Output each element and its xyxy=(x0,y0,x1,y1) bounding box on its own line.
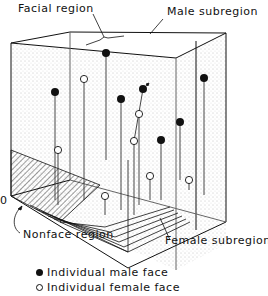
filled-circle-icon xyxy=(36,269,43,276)
male-face-point xyxy=(117,95,125,103)
male-face-point xyxy=(139,85,147,93)
female-face-point xyxy=(130,137,137,144)
male-face-point xyxy=(102,49,110,57)
male-subregion-label: Male subregion xyxy=(167,5,258,18)
legend-male-label: Individual male face xyxy=(47,266,168,279)
legend-male: Individual male face xyxy=(36,266,168,279)
open-circle-icon xyxy=(36,284,43,291)
female-face-point xyxy=(54,146,61,153)
male-face-point xyxy=(200,74,208,82)
female-face-point xyxy=(80,75,87,82)
female-face-point xyxy=(146,172,153,179)
origin-label: 0 xyxy=(0,194,8,207)
male-face-point xyxy=(157,136,165,144)
male-face-point xyxy=(176,118,184,126)
female-subregion-label: Female subregion xyxy=(165,234,268,247)
legend-female: Individual female face xyxy=(36,281,180,294)
face-space-diagram xyxy=(0,0,268,296)
female-face-point xyxy=(135,110,142,117)
legend-female-label: Individual female face xyxy=(47,281,180,294)
female-face-point xyxy=(101,192,108,199)
facial-region-label: Facial region xyxy=(18,2,94,15)
nonface-region-label: Nonface region xyxy=(23,228,114,241)
female-face-point xyxy=(185,176,192,183)
male-face-point xyxy=(51,88,59,96)
